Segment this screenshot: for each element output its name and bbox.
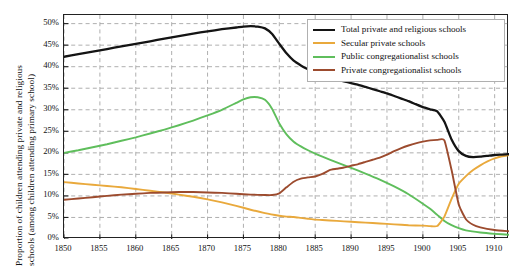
legend-item[interactable]: Public congregationalist schools xyxy=(313,50,499,64)
y-tick-label: 45% xyxy=(31,39,59,49)
series-line-secular-private-schools xyxy=(64,155,509,226)
legend-item[interactable]: Private congregationalist schools xyxy=(313,64,499,78)
x-tick-label: 1865 xyxy=(151,243,191,253)
legend-color-swatch xyxy=(313,29,335,31)
x-tick-label: 1890 xyxy=(330,243,370,253)
x-tick-label: 1850 xyxy=(43,243,83,253)
legend-item[interactable]: Total private and religious schools xyxy=(313,23,499,37)
x-tick-label: 1860 xyxy=(115,243,155,253)
x-tick-label: 1905 xyxy=(438,243,478,253)
y-tick-label: 15% xyxy=(31,168,59,178)
legend-color-swatch xyxy=(313,69,335,71)
y-tick-label: 35% xyxy=(31,82,59,92)
x-tick-label: 1855 xyxy=(79,243,119,253)
chart-figure: Proportion of children attending private… xyxy=(0,0,526,272)
y-tick-label: 20% xyxy=(31,146,59,156)
legend-item-label: Public congregationalist schools xyxy=(341,52,459,61)
x-tick-label: 1870 xyxy=(187,243,227,253)
legend-color-swatch xyxy=(313,42,335,44)
legend: Total private and religious schoolsSecul… xyxy=(307,19,505,82)
y-tick-label: 40% xyxy=(31,60,59,70)
y-tick-label: 0% xyxy=(31,232,59,242)
legend-item[interactable]: Secular private schools xyxy=(313,37,499,51)
x-tick-label: 1910 xyxy=(474,243,514,253)
y-tick-label: 5% xyxy=(31,211,59,221)
y-tick-label: 10% xyxy=(31,189,59,199)
y-tick-label: 30% xyxy=(31,103,59,113)
x-tick-label: 1880 xyxy=(258,243,298,253)
y-axis-title-line-1: Proportion of children attending private… xyxy=(14,65,24,266)
legend-item-label: Secular private schools xyxy=(341,39,425,48)
y-tick-label: 25% xyxy=(31,125,59,135)
x-tick-label: 1900 xyxy=(402,243,442,253)
y-tick-label: 50% xyxy=(31,17,59,27)
legend-color-swatch xyxy=(313,56,335,58)
x-tick-label: 1895 xyxy=(366,243,406,253)
x-tick-label: 1875 xyxy=(222,243,262,253)
legend-item-label: Private congregationalist schools xyxy=(341,66,461,75)
x-tick-label: 1885 xyxy=(294,243,334,253)
legend-item-label: Total private and religious schools xyxy=(341,25,466,34)
